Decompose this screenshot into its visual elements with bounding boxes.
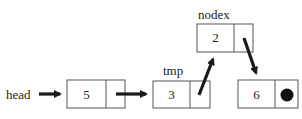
null-pointer-icon <box>281 89 294 102</box>
linked-list-diagram: head 5 tmp 3 nodex 2 6 <box>0 0 302 119</box>
node-2-value: 3 <box>168 87 175 102</box>
nodex-label: nodex <box>198 7 230 22</box>
tmp-label: tmp <box>163 63 183 78</box>
node-4-value: 6 <box>253 87 260 102</box>
head-label: head <box>6 87 31 102</box>
node-1-value: 5 <box>83 87 90 102</box>
node-3-value: 2 <box>212 30 219 45</box>
node-4: 6 <box>238 80 298 108</box>
